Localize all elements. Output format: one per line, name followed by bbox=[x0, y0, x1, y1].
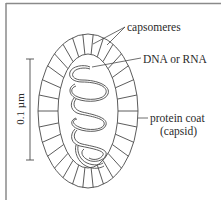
label-protein-coat: protein coat bbox=[150, 112, 205, 124]
label-nucleic-acid: DNA or RNA bbox=[143, 53, 207, 65]
label-capsomeres: capsomeres bbox=[127, 21, 181, 33]
capsid-inner-edge bbox=[58, 54, 118, 168]
label-capsid: (capsid) bbox=[160, 125, 197, 137]
virus-diagram bbox=[0, 0, 221, 200]
scale-bar-label: 0.1 µm bbox=[14, 89, 26, 129]
diagram-frame: capsomeres DNA or RNA protein coat (caps… bbox=[0, 0, 221, 200]
capsomeres-leader-2 bbox=[107, 27, 125, 45]
scale-bar bbox=[26, 59, 34, 160]
